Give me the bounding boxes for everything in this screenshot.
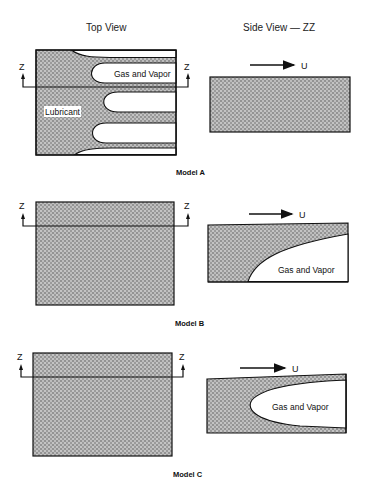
model-c-side-view: U Gas and Vapor — [207, 364, 346, 433]
section-marker-left: Z — [19, 201, 25, 211]
section-marker-left: Z — [17, 352, 23, 362]
velocity-label: U — [299, 210, 306, 220]
model-b-side-view: U Gas and Vapor — [208, 210, 348, 282]
model-c-top-view — [33, 353, 172, 456]
cavitation-models-diagram: Top View Side View — ZZ Gas and Vapor Lu… — [0, 0, 365, 494]
lubricant-label: Lubricant — [45, 107, 81, 117]
model-c-caption: Model C — [173, 470, 203, 479]
section-marker-right: Z — [184, 62, 190, 72]
model-b-top-view — [36, 202, 174, 305]
velocity-label: U — [292, 364, 299, 374]
model-a-caption: Model A — [176, 168, 205, 177]
section-marker-right: Z — [184, 201, 190, 211]
section-marker-right: Z — [179, 352, 185, 362]
section-marker-left: Z — [19, 62, 25, 72]
gas-vapor-label: Gas and Vapor — [114, 69, 171, 79]
model-a-top-view: Gas and Vapor Lubricant — [36, 50, 176, 155]
top-view-header: Top View — [86, 22, 127, 33]
gas-vapor-label: Gas and Vapor — [278, 265, 335, 275]
side-view-header: Side View — ZZ — [243, 22, 315, 33]
velocity-label: U — [301, 61, 308, 71]
model-b-caption: Model B — [175, 319, 205, 328]
gas-vapor-label: Gas and Vapor — [272, 402, 329, 412]
model-a-side-view: U — [210, 61, 350, 132]
